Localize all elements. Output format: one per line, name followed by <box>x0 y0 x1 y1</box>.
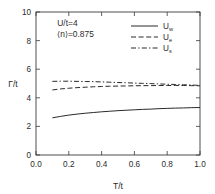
y-tick-label-0: 0 <box>26 151 31 160</box>
y-axis-title: Γ/t <box>8 79 18 89</box>
x-tick-label-5: 1.0 <box>194 160 206 169</box>
y-tick-label-4: 8 <box>26 37 31 46</box>
x-axis-title: T/t <box>113 181 124 191</box>
x-tick-label-4: 0.8 <box>162 160 174 169</box>
annotation-1: ⟨n⟩=0.875 <box>57 29 94 39</box>
x-tick-label-0: 0.0 <box>30 160 42 169</box>
x-tick-label-3: 0.6 <box>129 160 141 169</box>
x-tick-label-2: 0.4 <box>96 160 108 169</box>
y-tick-label-2: 4 <box>26 94 31 103</box>
y-tick-label-3: 6 <box>26 65 31 74</box>
y-tick-label-1: 2 <box>26 122 31 131</box>
y-tick-label-5: 10 <box>22 8 32 17</box>
line-chart: 0.00.20.40.60.81.0 0246810 T/t Γ/t U/t=4… <box>0 0 215 194</box>
chart-figure: 0.00.20.40.60.81.0 0246810 T/t Γ/t U/t=4… <box>0 0 215 194</box>
annotation-0: U/t=4 <box>57 18 78 28</box>
x-tick-label-1: 0.2 <box>63 160 75 169</box>
